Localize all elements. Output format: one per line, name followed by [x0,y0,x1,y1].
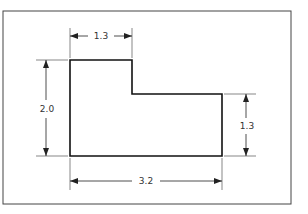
part-outline [70,60,222,156]
extension-lines [36,28,256,190]
right-height-label: 1.3 [240,121,254,131]
top-width-label: 1.3 [94,31,108,41]
technical-drawing: 1.3 2.0 1.3 3.2 [0,0,308,214]
bottom-width-label: 3.2 [139,176,153,186]
left-height-label: 2.0 [40,104,55,114]
